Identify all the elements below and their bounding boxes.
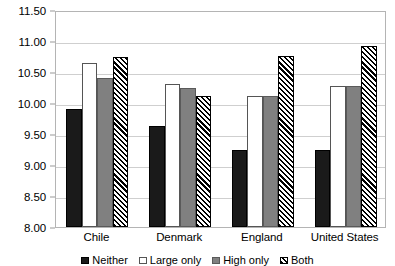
y-tick-label: 9.50 <box>24 129 46 141</box>
legend-label: High only <box>223 255 269 266</box>
bar-group <box>66 12 128 227</box>
y-tick-label: 10.00 <box>18 98 46 110</box>
legend-item: Large only <box>139 255 201 266</box>
legend-swatch-icon <box>212 257 220 264</box>
legend-item: Both <box>280 255 314 266</box>
bar-group <box>232 12 294 227</box>
bar <box>66 109 82 227</box>
legend-swatch-icon <box>139 257 147 264</box>
legend-swatch-icon <box>81 257 89 264</box>
y-tick-label: 11.00 <box>19 36 46 48</box>
y-axis: 11.5011.0010.5010.009.509.008.508.00 <box>0 0 55 240</box>
x-tick-label: United States <box>311 231 379 243</box>
x-tick-label: England <box>241 231 283 243</box>
x-tick-label: Chile <box>84 231 110 243</box>
bar <box>346 86 362 227</box>
bar <box>330 86 346 227</box>
bar <box>278 56 294 227</box>
bar <box>247 96 263 227</box>
bar <box>180 88 196 228</box>
bar <box>361 46 377 227</box>
bar <box>149 126 165 227</box>
legend-item: Neither <box>81 255 127 266</box>
bar <box>263 96 279 227</box>
bar <box>113 57 129 227</box>
y-tick-label: 10.50 <box>18 67 46 79</box>
legend-label: Neither <box>92 255 127 266</box>
plot-area <box>55 11 386 228</box>
legend-label: Large only <box>150 255 201 266</box>
bar <box>232 150 248 228</box>
x-tick-label: Denmark <box>156 231 202 243</box>
bar <box>196 96 212 227</box>
legend-label: Both <box>291 255 314 266</box>
y-tick-label: 11.50 <box>19 5 46 17</box>
bar <box>315 150 331 228</box>
x-axis: ChileDenmarkEnglandUnited States <box>55 231 386 247</box>
y-tick-label: 8.50 <box>24 191 46 203</box>
y-tick-label: 9.00 <box>24 160 46 172</box>
bar-group <box>315 12 377 227</box>
legend-item: High only <box>212 255 269 266</box>
y-tick-label: 8.00 <box>24 222 46 234</box>
bar <box>165 84 181 227</box>
bar-chart: 11.5011.0010.5010.009.509.008.508.00 Chi… <box>0 0 395 266</box>
bars-layer <box>56 12 385 227</box>
bar <box>82 63 98 227</box>
bar-group <box>149 12 211 227</box>
legend-swatch-icon <box>280 257 288 264</box>
chart-legend: NeitherLarge onlyHigh onlyBoth <box>0 255 395 266</box>
bar <box>97 78 113 227</box>
